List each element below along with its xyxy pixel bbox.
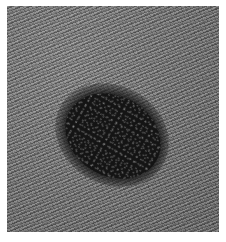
image-frame	[7, 6, 219, 232]
